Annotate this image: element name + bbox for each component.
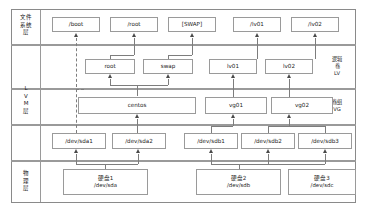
mountpoint-swap[interactable]: [SWAP] [168,17,216,32]
connector-disksdb-branch-bar [211,164,325,165]
logical-volume-lv02-label: lv02 [283,63,295,70]
arrowhead-boot [74,33,78,37]
mountpoint-boot-label: /boot [69,21,83,28]
arrowhead-sda1 [74,149,78,153]
connector-lv02-to-mount [315,38,316,59]
mountpoint-lv02[interactable]: /lv02 [291,17,339,32]
arrowhead-vg01 [231,114,235,118]
arrowhead-lvswap [166,74,170,78]
label-column-divider-physical [40,162,41,202]
physical-volume-sda1-label: /dev/sda1 [65,138,93,145]
arrowhead-lvroot [108,74,112,78]
physical-volume-sda1[interactable]: /dev/sda1 [52,133,106,149]
connector-lvroot-to-root-v [134,38,135,55]
physical-volume-sdb2[interactable]: /dev/sdb2 [241,133,295,149]
connector-disksda-branch-bar [76,164,138,165]
connector-disksdb-to-sdb3 [325,154,326,164]
layer-label-lvm-char-3: 层 [15,108,37,116]
layer-label-lvm-char-2: M [15,100,37,108]
layer-label-physical-char-1: 理 [15,178,37,186]
connector-disksdb-to-sdb2 [268,154,269,164]
connector-sdb2-up-stub [268,126,269,133]
connector-centos-bar-joint [137,85,138,88]
connector-sda2-to-centos [137,119,138,133]
layer-label-filesystem: 文件 系统 层 [15,14,37,37]
label-column-divider-lvm [40,46,41,160]
role-label-lv-line-2: LV [320,70,354,77]
volume-group-vg02[interactable]: vg02 [271,97,333,114]
logical-volume-lv02[interactable]: lv02 [265,59,313,74]
arrowhead-lv01 [255,33,259,37]
physical-volume-sdb2-label: /dev/sdb2 [254,138,282,145]
disk-sdc[interactable]: 硬盘3 /dev/sdc [288,169,356,195]
logical-volume-swap[interactable]: swap [143,59,193,74]
role-label-lv-line-1: 卷 [320,63,354,70]
arrowhead-sda2 [136,149,140,153]
arrowhead-lv02-lv [287,74,291,78]
lvm-architecture-diagram: 文件 系统 层 L V M 层 物 理 层 逻辑 卷 LV 卷组 VG 物理卷 … [0,0,367,212]
arrowhead-sdb2 [266,149,270,153]
disk-sdb-name: 硬盘2 [231,175,247,182]
disk-sdb-device: /dev/sdb [227,182,250,189]
label-column-divider-fs [40,10,41,44]
role-label-lv: 逻辑 卷 LV [320,56,354,77]
connector-sdb3-to-vg02-h [289,126,325,127]
physical-volume-sdb1-label: /dev/sdb1 [197,138,225,145]
disk-sda-name: 硬盘1 [98,175,114,182]
volume-group-centos[interactable]: centos [78,97,196,114]
layer-label-lvm-char-0: L [15,85,37,93]
connector-sdb1-up-stub [211,126,212,133]
layer-label-filesystem-char-1: 系统 [15,22,37,30]
connector-lvswap-to-swap-v [192,38,193,55]
physical-volume-sdb1[interactable]: /dev/sdb1 [184,133,238,149]
arrowhead-lv01-lv [231,74,235,78]
physical-volume-sda2[interactable]: /dev/sda2 [112,133,166,149]
mountpoint-boot[interactable]: /boot [52,17,100,32]
connector-dashed-tick [76,89,84,90]
layer-label-filesystem-char-0: 文件 [15,14,37,22]
connector-lvroot-to-root-h [110,55,134,56]
layer-label-lvm-char-1: V [15,93,37,101]
disk-sdc-device: /dev/sdc [311,182,334,189]
connector-lv01-to-mount [257,38,258,59]
layer-label-physical: 物 理 层 [15,170,37,193]
physical-volume-sda2-label: /dev/sda2 [125,138,153,145]
connector-centos-branch-bar [110,85,168,86]
disk-sdc-name: 硬盘3 [314,175,330,182]
connector-lvswap-to-swap-h [168,55,192,56]
connector-sdb3-up-stub [325,126,326,133]
logical-volume-root-label: root [104,63,115,70]
mountpoint-lv02-label: /lv02 [308,21,322,28]
arrowhead-root [132,33,136,37]
connector-centos-to-lvswap [168,79,169,85]
logical-volume-root[interactable]: root [85,59,135,74]
connector-disksdb-to-sdb1 [211,154,212,164]
connector-disksda-to-sda1 [76,154,77,164]
physical-volume-sdb3-label: /dev/sdb3 [311,138,339,145]
mountpoint-lv01[interactable]: /lv01 [233,17,281,32]
mountpoint-lv01-label: /lv01 [250,21,264,28]
disk-sda[interactable]: 硬盘1 /dev/sda [63,169,148,195]
logical-volume-lv01[interactable]: lv01 [209,59,257,74]
connector-sdb2-to-vg02-v [289,119,290,126]
mountpoint-root-label: /root [127,21,140,28]
volume-group-vg01[interactable]: vg01 [205,97,267,114]
connector-vg02-to-lv02 [289,79,290,97]
connector-sdb2-to-vg02-h [268,126,289,127]
layer-label-lvm: L V M 层 [15,85,37,115]
connector-centos-to-lvroot [110,79,111,85]
connector-sda1-to-boot-dashed [76,38,77,133]
physical-volume-sdb3[interactable]: /dev/sdb3 [298,133,352,149]
disk-sdb[interactable]: 硬盘2 /dev/sdb [196,169,281,195]
mountpoint-root[interactable]: /root [110,17,158,32]
mountpoint-swap-label: [SWAP] [182,21,202,28]
disk-sda-device: /dev/sda [94,182,117,189]
arrowhead-centos [135,114,139,118]
arrowhead-lv02 [313,33,317,37]
separator-pv-physical [11,160,356,162]
logical-volume-lv01-label: lv01 [227,63,239,70]
role-label-lv-line-0: 逻辑 [320,56,354,63]
layer-label-filesystem-char-2: 层 [15,29,37,37]
separator-fs-lvm [11,44,356,46]
volume-group-vg01-label: vg01 [229,102,243,109]
